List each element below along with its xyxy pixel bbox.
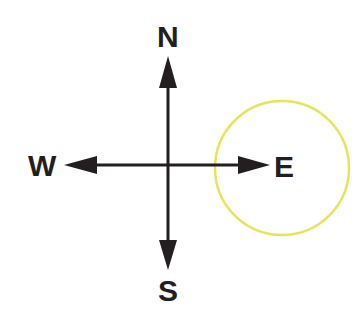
west-arrowhead-icon (64, 156, 97, 174)
east-label: E (274, 152, 294, 182)
west-label: W (28, 151, 56, 181)
east-arrowhead-icon (238, 156, 270, 174)
north-label: N (157, 22, 179, 52)
south-arrowhead-icon (159, 240, 177, 270)
north-arrowhead-icon (159, 56, 177, 88)
south-label: S (158, 276, 178, 306)
